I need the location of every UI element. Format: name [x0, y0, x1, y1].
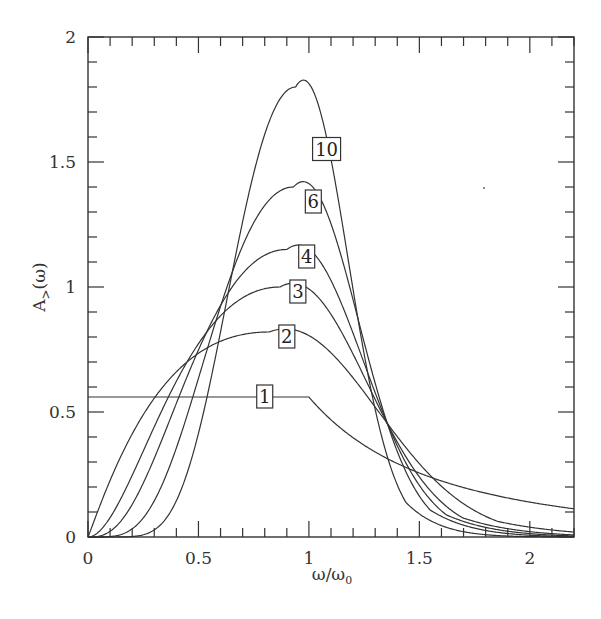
y-tick-label: 1: [65, 277, 76, 297]
x-axis-label: ω/ω0: [312, 564, 352, 587]
curve-6: [88, 182, 574, 537]
y-tick-label: 0.5: [49, 402, 76, 422]
y-axis-label: A>(ω): [29, 262, 53, 312]
x-tick-label: 2: [524, 548, 535, 568]
svg-text:2: 2: [281, 326, 292, 347]
x-tick-label: 1.5: [406, 548, 433, 568]
curve-4: [88, 245, 574, 537]
speck: [483, 187, 485, 189]
svg-text:A>(ω): A>(ω): [29, 262, 53, 312]
x-tick-label: 0.5: [185, 548, 212, 568]
curve-3: [88, 283, 574, 537]
curve-label-4: 4: [299, 245, 315, 268]
y-tick-label: 1.5: [49, 152, 76, 172]
curve-label-3: 3: [290, 280, 306, 303]
svg-text:1: 1: [259, 386, 270, 407]
axis-ticks: [88, 37, 574, 537]
curve-label-1: 1: [257, 385, 273, 408]
y-tick-label: 2: [65, 27, 76, 47]
curve-labels: 1234610: [257, 138, 341, 409]
svg-text:4: 4: [301, 246, 312, 267]
plot-frame: [88, 37, 574, 537]
curve-label-6: 6: [305, 190, 321, 213]
svg-text:3: 3: [292, 281, 303, 302]
x-tick-label: 0: [83, 548, 94, 568]
svg-text:6: 6: [308, 191, 319, 212]
spectral-function-chart: 00.511.5200.511.52 1234610 ω/ω0 A>(ω): [0, 0, 601, 619]
curve-label-2: 2: [279, 325, 295, 348]
curve-label-10: 10: [313, 138, 341, 161]
y-tick-label: 0: [65, 527, 76, 547]
curve-2: [88, 329, 574, 537]
svg-text:10: 10: [315, 139, 338, 160]
